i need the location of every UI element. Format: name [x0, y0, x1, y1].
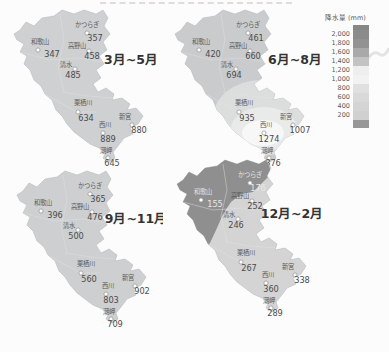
- station-name: 西川: [102, 282, 114, 290]
- station-value: 500: [68, 231, 84, 241]
- station-value: 1007: [290, 125, 311, 135]
- legend-color-band: [353, 102, 369, 111]
- station-value: 485: [65, 70, 81, 80]
- legend-tick-label: 600: [325, 93, 353, 102]
- station-dot: [197, 48, 201, 52]
- legend-tick-labels: 2,0001,8001,6001,4001,2001,0008006004002…: [325, 25, 353, 128]
- legend-title: 降水量 (mm): [325, 12, 385, 22]
- legend-tick-label: 400: [325, 102, 353, 111]
- station-value: 347: [44, 49, 60, 59]
- station-name: 西川: [260, 121, 272, 129]
- legend-color-band: [353, 93, 369, 102]
- legend-tick-label: 1,400: [325, 57, 353, 66]
- station-value: 1274: [259, 134, 280, 144]
- legend-color-band: [353, 39, 369, 48]
- station-value: 267: [241, 263, 257, 273]
- legend-color-band: [353, 30, 369, 39]
- station-name: かつらぎ: [238, 170, 262, 179]
- legend-tick-label: 2,000: [325, 30, 353, 39]
- station-value: 365: [90, 194, 106, 204]
- legend-color-band: [353, 48, 369, 57]
- legend-tick-label: 1,200: [325, 66, 353, 75]
- legend-tick-label: 800: [325, 84, 353, 93]
- station-name: 潮岬: [103, 307, 115, 316]
- legend-body: 2,0001,8001,6001,4001,2001,0008006004002…: [325, 25, 385, 128]
- station-name: 栗栖川: [235, 98, 253, 107]
- station-name: かつらぎ: [236, 20, 260, 29]
- station-value: 360: [263, 284, 279, 294]
- station-value: 458: [84, 51, 100, 61]
- legend-color-band: [353, 84, 369, 93]
- station-name: 新宮: [282, 262, 294, 271]
- station-value: 880: [131, 125, 147, 135]
- station-value: 155: [207, 199, 223, 209]
- station-name: 新宮: [280, 112, 292, 121]
- map-autumn: かつらぎ365和歌山396高野山476清水500栗栖川560西川803新宮902…: [3, 161, 163, 333]
- prefecture-outline: [17, 171, 146, 323]
- station-name: 高野山: [229, 41, 247, 50]
- station-value: 634: [78, 113, 94, 123]
- station-value: 660: [245, 51, 261, 61]
- station-name: 和歌山: [192, 37, 210, 46]
- station-value: 935: [239, 113, 255, 123]
- station-name: 潮岬: [100, 146, 112, 155]
- legend-color-band: [353, 57, 369, 66]
- station-name: 高野山: [71, 202, 89, 211]
- season-title: 3月~5月: [104, 52, 158, 67]
- station-value: 889: [100, 134, 116, 144]
- station-name: 清水: [221, 60, 234, 69]
- station-dot: [36, 48, 40, 52]
- station-value: 803: [103, 295, 119, 305]
- station-value: 709: [107, 319, 123, 329]
- station-name: かつらぎ: [75, 20, 99, 29]
- legend: 降水量 (mm) 2,0001,8001,6001,4001,2001,0008…: [325, 12, 385, 128]
- station-name: 和歌山: [34, 198, 52, 207]
- season-title: 9月~11月: [105, 211, 163, 226]
- station-name: 新宮: [119, 112, 131, 121]
- legend-tick-label: 1,600: [325, 48, 353, 57]
- station-name: 和歌山: [31, 37, 49, 46]
- map-summer: かつらぎ461和歌山420高野山660清水694栗栖川935西川1274新宮10…: [161, 0, 321, 172]
- station-value: 338: [294, 275, 310, 285]
- station-name: かつらぎ: [78, 181, 102, 190]
- legend-tick-label: 200: [325, 111, 353, 120]
- legend-color-band: [353, 111, 369, 120]
- station-name: 新宮: [122, 273, 134, 282]
- map-panel-autumn: かつらぎ365和歌山396高野山476清水500栗栖川560西川803新宮902…: [3, 161, 163, 333]
- station-value: 902: [134, 286, 150, 296]
- season-title: 6月~8月: [268, 52, 321, 67]
- station-name: 清水: [63, 221, 76, 230]
- station-name: 清水: [223, 210, 236, 219]
- station-value: 461: [248, 33, 264, 43]
- prefecture-outline: [14, 10, 143, 162]
- station-value: 476: [87, 212, 103, 222]
- station-value: 694: [226, 70, 242, 80]
- station-value: 289: [267, 308, 283, 318]
- map-panel-winter: かつらぎ176和歌山155高野山252清水246栗栖川267西川360新宮338…: [163, 150, 323, 322]
- station-name: 潮岬: [263, 296, 275, 305]
- legend-tick-label: 1,800: [325, 39, 353, 48]
- station-value: 357: [87, 33, 103, 43]
- station-name: 西川: [262, 271, 274, 279]
- station-dot: [199, 198, 203, 202]
- legend-color-band: [353, 120, 369, 128]
- station-value: 420: [205, 49, 221, 59]
- station-name: 高野山: [231, 191, 249, 200]
- map-panel-spring: かつらぎ357和歌山347高野山458清水485栗栖川634西川889新宮880…: [0, 0, 160, 172]
- station-name: 和歌山: [194, 187, 212, 196]
- station-name: 栗栖川: [74, 98, 92, 107]
- station-dot: [39, 209, 43, 213]
- station-name: 西川: [99, 121, 111, 129]
- station-value: 560: [81, 274, 97, 284]
- station-value: 246: [228, 220, 244, 230]
- station-value: 396: [47, 210, 63, 220]
- station-name: 栗栖川: [237, 248, 255, 257]
- legend-color-bar: [353, 25, 369, 128]
- legend-color-band: [353, 75, 369, 84]
- map-panel-summer: かつらぎ461和歌山420高野山660清水694栗栖川935西川1274新宮10…: [161, 0, 321, 172]
- station-value: 176: [250, 183, 266, 193]
- station-name: 高野山: [68, 41, 86, 50]
- season-title: 12月~2月: [261, 206, 323, 221]
- map-spring: かつらぎ357和歌山347高野山458清水485栗栖川634西川889新宮880…: [0, 0, 160, 172]
